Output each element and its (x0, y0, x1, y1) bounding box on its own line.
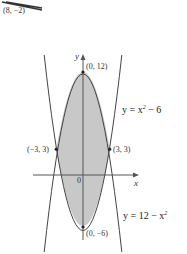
bottom-vertex-label: (0, −6) (86, 230, 108, 238)
x-axis-label: x (134, 179, 138, 188)
y-axis-label: y (75, 52, 79, 61)
eq-lower-prefix: y = 12 − x (123, 210, 164, 221)
eq-upper-suffix: − 6 (146, 104, 162, 115)
eq-upper-prefix: y = x (122, 104, 143, 115)
right-intersection-label: (3, 3) (113, 146, 130, 154)
bottom-vertex-dot (81, 225, 84, 228)
y-axis-arrow-icon (81, 54, 86, 60)
equation-lower: y = 12 − x2 (123, 210, 167, 221)
left-intersection-dot (55, 148, 58, 151)
top-vertex-dot (81, 70, 84, 73)
x-axis-arrow-icon (133, 173, 139, 178)
equation-upper: y = x2 − 6 (122, 104, 161, 115)
left-intersection-label: (−3, 3) (27, 146, 49, 154)
fragment-label: (8, −2) (3, 7, 25, 15)
eq-lower-sup: 2 (164, 210, 167, 216)
top-vertex-label: (0, 12) (86, 63, 107, 71)
origin-label: 0 (77, 177, 81, 185)
right-intersection-dot (108, 148, 111, 151)
